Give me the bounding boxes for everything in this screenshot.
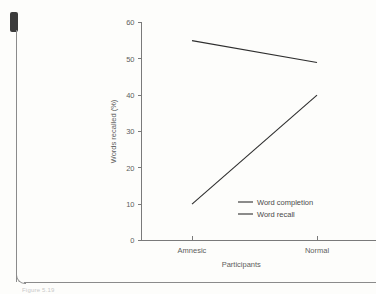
y-tick-label: 40 [126,91,134,100]
y-axis-title: Words recalled (%) [109,99,118,163]
y-axis: 0102030405060 [126,18,141,245]
line-chart: 0102030405060 AmnesicNormal Word complet… [0,0,376,294]
y-tick-label: 0 [130,236,134,245]
y-tick-label: 30 [126,127,134,136]
y-tick-label: 50 [126,55,134,64]
x-axis: AmnesicNormal [142,236,376,255]
series-lines [192,41,317,205]
series-line-1 [192,41,317,63]
series-line-2 [192,95,317,204]
y-tick-label: 60 [126,18,134,27]
x-tick-label: Amnesic [178,246,207,255]
legend-label-2: Word recall [257,210,295,219]
legend-label-1: Word completion [257,198,313,207]
y-tick-label: 10 [126,200,134,209]
y-tick-label: 20 [126,164,134,173]
chart-legend: Word completionWord recall [238,198,313,219]
x-axis-title: Participants [222,260,261,269]
x-tick-label: Normal [305,246,330,255]
